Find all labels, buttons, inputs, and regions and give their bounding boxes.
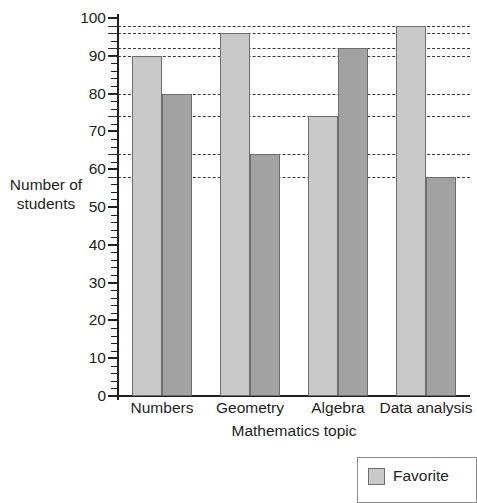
y-tick-major (108, 319, 118, 321)
bar-algebra-favorite (308, 116, 338, 396)
y-tick-minor (111, 237, 117, 238)
y-tick-label: 70 (62, 123, 106, 139)
y-tick-minor (111, 86, 117, 87)
y-tick-minor (111, 222, 117, 223)
y-tick-minor (111, 124, 117, 125)
y-tick-label: 50 (62, 199, 106, 215)
y-tick-minor (111, 373, 117, 374)
chart-legend: Favorite (357, 457, 477, 503)
y-tick-minor (111, 275, 117, 276)
y-tick-minor (111, 109, 117, 110)
y-tick-major (108, 244, 118, 246)
y-tick-major (108, 17, 118, 19)
y-tick-minor (111, 78, 117, 79)
bar-numbers-favorite (132, 56, 162, 396)
y-tick-minor (111, 388, 117, 389)
favorite-swatch-icon (368, 468, 385, 485)
y-tick-label: 80 (62, 86, 106, 102)
y-tick-major (108, 357, 118, 359)
y-tick-minor (111, 215, 117, 216)
bar-data-analysis-favorite (396, 26, 426, 396)
y-tick-minor (111, 139, 117, 140)
y-tick-minor (111, 63, 117, 64)
bar-numbers-least-favorite (162, 94, 192, 396)
y-tick-minor (111, 298, 117, 299)
plot-area (118, 18, 470, 396)
bar-data-analysis-least-favorite (426, 177, 456, 396)
y-tick-minor (111, 162, 117, 163)
y-tick-minor (111, 147, 117, 148)
y-tick-minor (111, 192, 117, 193)
y-tick-label: 60 (62, 161, 106, 177)
y-tick-minor (111, 199, 117, 200)
y-tick-minor (111, 101, 117, 102)
y-tick-minor (111, 71, 117, 72)
y-tick-label: 0 (62, 388, 106, 404)
y-axis-tick-labels: 0102030405060708090100 (58, 0, 106, 488)
y-tick-minor (111, 184, 117, 185)
y-tick-major (108, 168, 118, 170)
bar-geometry-least-favorite (250, 154, 280, 396)
y-tick-label: 30 (62, 275, 106, 291)
y-tick-minor (111, 252, 117, 253)
y-tick-label: 40 (62, 237, 106, 253)
y-tick-minor (111, 366, 117, 367)
y-tick-major (108, 206, 118, 208)
y-tick-minor (111, 41, 117, 42)
y-tick-minor (111, 305, 117, 306)
y-tick-major (108, 130, 118, 132)
y-tick-minor (111, 230, 117, 231)
y-tick-minor (111, 336, 117, 337)
y-tick-label: 20 (62, 312, 106, 328)
y-tick-minor (111, 381, 117, 382)
x-category-label: Data analysis (370, 399, 477, 416)
y-tick-minor (111, 267, 117, 268)
legend-item-favorite: Favorite (368, 467, 449, 485)
bar-geometry-favorite (220, 33, 250, 396)
y-tick-minor (111, 351, 117, 352)
bar-algebra-least-favorite (338, 48, 368, 396)
x-axis-title: Mathematics topic (118, 422, 470, 440)
y-tick-minor (111, 328, 117, 329)
y-tick-minor (111, 313, 117, 314)
y-tick-minor (111, 260, 117, 261)
y-tick-major (108, 395, 118, 397)
y-tick-minor (111, 343, 117, 344)
y-tick-label: 90 (62, 48, 106, 64)
y-tick-major (108, 282, 118, 284)
y-tick-minor (111, 290, 117, 291)
y-tick-label: 10 (62, 350, 106, 366)
legend-item-label: Favorite (393, 467, 449, 485)
y-tick-label: 100 (62, 10, 106, 26)
